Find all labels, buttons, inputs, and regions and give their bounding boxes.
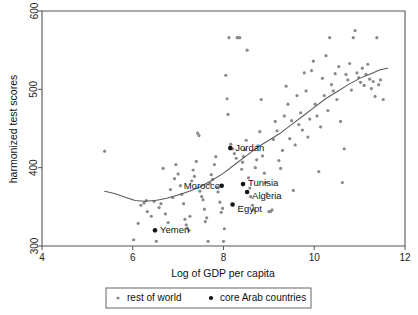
point-label-algeria: Algeria (252, 190, 282, 201)
data-point-rest-of-world (183, 218, 186, 221)
data-point-egypt (230, 202, 235, 207)
data-point-rest-of-world (206, 240, 209, 243)
chart-legend: rest of world core Arab countries (106, 288, 311, 308)
data-point-rest-of-world (177, 172, 180, 175)
data-point-rest-of-world (373, 95, 376, 98)
legend-label-core-arab: core Arab countries (220, 292, 306, 303)
data-point-rest-of-world (359, 81, 362, 84)
data-point-rest-of-world (346, 78, 349, 81)
data-point-rest-of-world (238, 36, 241, 39)
data-point-rest-of-world (132, 238, 135, 241)
data-point-rest-of-world (285, 85, 288, 88)
point-label-egypt: Egypt (238, 203, 263, 214)
y-tick-label: 500 (29, 81, 40, 98)
data-point-rest-of-world (213, 163, 216, 166)
data-point-rest-of-world (343, 147, 346, 150)
data-point-rest-of-world (295, 94, 298, 97)
data-point-rest-of-world (341, 181, 344, 184)
data-point-rest-of-world (240, 168, 243, 171)
data-point-rest-of-world (235, 157, 238, 160)
data-point-rest-of-world (304, 89, 307, 92)
data-point-rest-of-world (223, 227, 226, 230)
data-point-rest-of-world (214, 155, 217, 158)
data-point-rest-of-world (377, 83, 380, 86)
data-point-rest-of-world (164, 212, 167, 215)
x-tick-label: 8 (221, 252, 227, 263)
data-point-rest-of-world (281, 149, 284, 152)
y-axis-title: harmonized test scores (7, 75, 19, 184)
data-point-rest-of-world (323, 94, 326, 97)
data-point-rest-of-world (368, 78, 371, 81)
point-label-tunisia: Tunisia (248, 177, 279, 188)
data-point-rest-of-world (200, 195, 203, 198)
data-point-rest-of-world (218, 201, 221, 204)
data-point-rest-of-world (146, 210, 149, 213)
data-point-rest-of-world (379, 78, 382, 81)
x-tick-label: 6 (130, 252, 136, 263)
data-point-rest-of-world (227, 36, 230, 39)
data-point-rest-of-world (203, 208, 206, 211)
data-point-rest-of-world (370, 87, 373, 90)
data-point-rest-of-world (229, 143, 232, 146)
data-point-rest-of-world (275, 129, 278, 132)
data-point-rest-of-world (182, 202, 185, 205)
data-point-rest-of-world (324, 54, 327, 57)
data-point-rest-of-world (303, 71, 306, 74)
data-point-rest-of-world (263, 172, 266, 175)
data-point-rest-of-world (306, 136, 309, 139)
data-point-rest-of-world (372, 80, 375, 83)
data-point-rest-of-world (270, 208, 273, 211)
data-point-jordan (228, 146, 233, 151)
data-point-rest-of-world (137, 222, 140, 225)
legend-marker-rest-of-world (116, 296, 119, 299)
scatter-plot-figure: 300400500600 4681012 JordanMoroccoTunisi… (0, 0, 418, 315)
data-point-rest-of-world (216, 190, 219, 193)
data-point-rest-of-world (335, 98, 338, 101)
y-tick-label: 600 (29, 2, 40, 19)
data-point-rest-of-world (299, 111, 302, 114)
legend-marker-core-arab (209, 296, 213, 300)
data-point-rest-of-world (328, 36, 331, 39)
data-point-rest-of-world (221, 207, 224, 210)
data-point-rest-of-world (288, 137, 291, 140)
chart-canvas: 300400500600 4681012 JordanMoroccoTunisi… (0, 0, 418, 315)
data-point-rest-of-world (173, 177, 176, 180)
data-point-rest-of-world (174, 163, 177, 166)
data-point-rest-of-world (337, 65, 340, 68)
x-tick-label: 12 (399, 252, 411, 263)
data-point-rest-of-world (348, 62, 351, 65)
data-point-rest-of-world (258, 130, 261, 133)
data-point-rest-of-world (352, 36, 355, 39)
point-label-morocco: Morocco (184, 180, 220, 191)
data-point-rest-of-world (220, 211, 223, 214)
data-point-rest-of-world (366, 63, 369, 66)
data-point-rest-of-world (261, 154, 264, 157)
data-point-rest-of-world (169, 188, 172, 191)
data-point-rest-of-world (375, 36, 378, 39)
data-point-rest-of-world (294, 143, 297, 146)
data-point-rest-of-world (139, 204, 142, 207)
point-label-jordan: Jordan (235, 142, 264, 153)
data-point-rest-of-world (350, 89, 353, 92)
data-point-rest-of-world (150, 215, 153, 218)
data-point-rest-of-world (226, 113, 229, 116)
data-point-rest-of-world (301, 128, 304, 131)
data-point-rest-of-world (201, 198, 204, 201)
data-point-rest-of-world (195, 160, 198, 163)
data-point-rest-of-world (254, 166, 257, 169)
data-point-rest-of-world (222, 240, 225, 243)
data-point-rest-of-world (355, 71, 358, 74)
data-point-rest-of-world (283, 114, 286, 117)
data-point-rest-of-world (245, 49, 248, 52)
data-point-rest-of-world (260, 98, 263, 101)
data-point-rest-of-world (319, 125, 322, 128)
data-point-rest-of-world (339, 120, 342, 123)
data-point-rest-of-world (330, 83, 333, 86)
data-point-tunisia (241, 182, 246, 187)
data-point-rest-of-world (192, 168, 195, 171)
data-point-rest-of-world (241, 161, 244, 164)
data-point-rest-of-world (382, 98, 385, 101)
data-point-rest-of-world (197, 134, 200, 137)
x-tick-label: 10 (309, 252, 321, 263)
data-point-rest-of-world (363, 84, 366, 87)
